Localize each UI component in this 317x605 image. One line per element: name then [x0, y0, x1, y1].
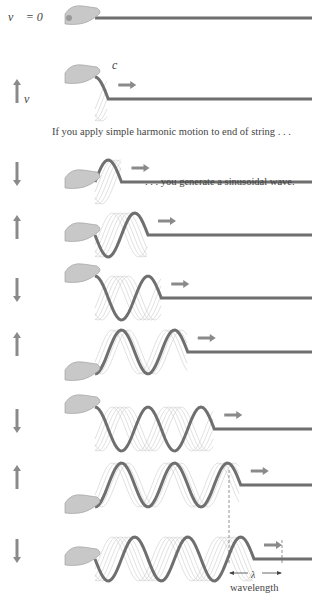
arrowhead-icon — [13, 215, 21, 221]
string — [95, 276, 312, 320]
arrowhead-icon — [13, 557, 21, 563]
lambda-label: λ — [251, 569, 255, 580]
arrowhead-icon — [13, 296, 21, 302]
hand-icon — [65, 6, 100, 25]
arrowhead-icon — [277, 571, 282, 575]
hand-icon — [65, 223, 100, 242]
caption-top: If you apply simple harmonic motion to e… — [52, 126, 291, 137]
hand-icon — [65, 547, 100, 566]
string — [95, 463, 312, 507]
string — [95, 77, 312, 99]
caption-mid: . . . you generate a sinusoidal wave. — [145, 176, 295, 187]
v-label: v⃗ — [24, 92, 39, 107]
arrowhead-icon — [13, 180, 21, 186]
v-equals-zero-label: v⃗ = 0⃗ — [8, 10, 52, 25]
hand-icon — [65, 495, 100, 514]
hand-icon — [65, 264, 100, 283]
arrowhead-icon — [130, 81, 136, 89]
arrowhead-icon — [183, 280, 189, 288]
arrowhead-icon — [210, 334, 216, 342]
string — [95, 213, 312, 257]
arrowhead-icon — [170, 217, 176, 225]
hand-icon — [65, 65, 100, 84]
hand-icon — [65, 395, 100, 414]
wavelength-label: wavelength — [230, 582, 278, 593]
c-label: c⃗ — [112, 58, 127, 73]
dot-icon — [66, 15, 72, 21]
arrowhead-icon — [144, 164, 150, 172]
hand-icon — [65, 170, 100, 189]
arrowhead-icon — [276, 541, 282, 549]
arrowhead-icon — [13, 79, 21, 85]
arrowhead-icon — [236, 411, 242, 419]
hand-icon — [65, 362, 100, 381]
wave-diagram — [0, 0, 317, 605]
arrowhead-icon — [13, 427, 21, 433]
arrowhead-icon — [13, 332, 21, 338]
string — [95, 407, 312, 451]
arrowhead-icon — [229, 571, 234, 575]
arrowhead-icon — [263, 467, 269, 475]
arrowhead-icon — [13, 465, 21, 471]
